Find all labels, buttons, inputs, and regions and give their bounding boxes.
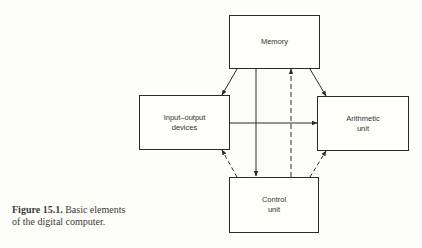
edge-memory-io [222, 69, 237, 95]
caption-text: Basic elements [65, 204, 125, 215]
arith-node: Arithmetic unit [317, 96, 409, 151]
caption-label: Figure 15.1. [12, 204, 63, 215]
io-label: Input–output devices [164, 113, 206, 133]
memory-node: Memory [229, 15, 320, 69]
control-node: Control unit [229, 177, 319, 233]
edge-memory-arith [310, 69, 326, 96]
memory-label: Memory [261, 37, 288, 47]
caption-text-2: of the digital computer. [12, 216, 105, 227]
edge-control-arith-dashed [310, 151, 326, 177]
control-label: Control unit [262, 195, 286, 215]
figure-caption: Figure 15.1. Basic elements of the digit… [12, 204, 125, 228]
io-node: Input–output devices [139, 95, 230, 150]
edge-control-io-dashed [222, 150, 237, 177]
arith-label: Arithmetic unit [346, 114, 379, 134]
